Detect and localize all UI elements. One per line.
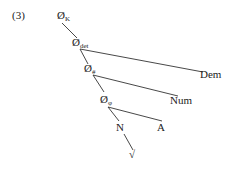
null-symbol: Ø: [84, 62, 92, 74]
example-number: (3): [12, 10, 25, 21]
branch-det-dem: [80, 49, 203, 72]
node-null-num: Ø#: [84, 63, 95, 76]
node-null-det: Ødet: [72, 37, 89, 50]
tree-branches: [0, 0, 234, 170]
node-null-phi: Øφ: [100, 94, 112, 107]
node-subscript: det: [80, 42, 89, 50]
branch-phi-a: [108, 107, 162, 121]
node-root: √: [129, 149, 135, 160]
null-symbol: Ø: [100, 93, 108, 105]
node-subscript: #: [92, 68, 96, 76]
null-symbol: Ø: [72, 36, 80, 48]
node-dem: Dem: [200, 69, 221, 80]
node-subscript: φ: [108, 99, 112, 107]
node-num-leaf: Num: [170, 95, 192, 106]
node-null-k: ØK: [57, 10, 70, 23]
node-n: N: [116, 122, 124, 133]
null-symbol: Ø: [57, 9, 65, 21]
node-a: A: [157, 122, 165, 133]
syntax-tree-diagram: (3) ØK Ødet Ø# Øφ Dem Num N A √: [0, 0, 234, 170]
node-subscript: K: [65, 15, 70, 23]
